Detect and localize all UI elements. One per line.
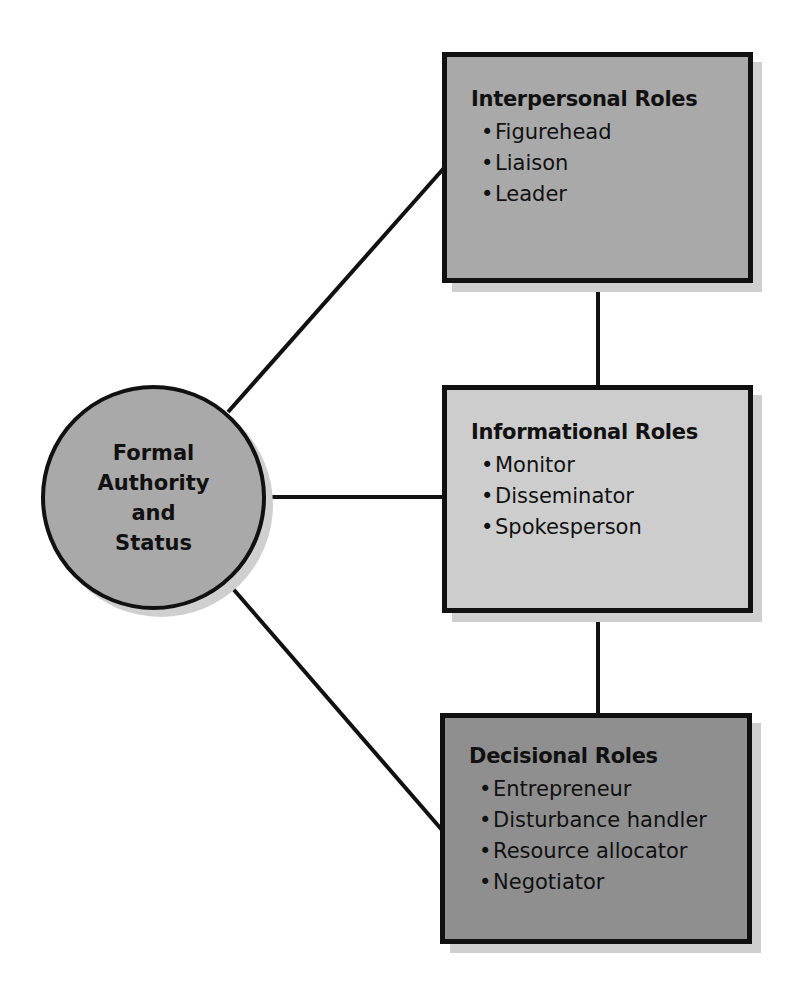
connector-circle-to-interpersonal [228, 168, 444, 412]
list-item: •Disseminator [481, 481, 748, 512]
list-item: •Negotiator [479, 867, 747, 898]
list-item: •Spokesperson [481, 512, 748, 543]
decisional-roles-list: •Entrepreneur •Disturbance handler •Reso… [469, 774, 747, 898]
informational-roles-list: •Monitor •Disseminator •Spokesperson [471, 450, 748, 543]
list-item: •Liaison [481, 148, 748, 179]
list-item: •Figurehead [481, 117, 748, 148]
interpersonal-roles-title: Interpersonal Roles [471, 87, 748, 111]
formal-authority-label: Formal Authority and Status [98, 438, 210, 558]
interpersonal-roles-list: •Figurehead •Liaison •Leader [471, 117, 748, 210]
decisional-roles-title: Decisional Roles [469, 744, 747, 768]
list-item: •Resource allocator [479, 836, 747, 867]
list-item: •Monitor [481, 450, 748, 481]
list-item: •Disturbance handler [479, 805, 747, 836]
decisional-roles-box: Decisional Roles •Entrepreneur •Disturba… [440, 713, 752, 944]
list-item: •Entrepreneur [479, 774, 747, 805]
informational-roles-box: Informational Roles •Monitor •Disseminat… [442, 385, 753, 613]
list-item: •Leader [481, 179, 748, 210]
connector-circle-to-decisional [228, 583, 442, 830]
informational-roles-title: Informational Roles [471, 420, 748, 444]
formal-authority-circle: Formal Authority and Status [41, 385, 266, 610]
interpersonal-roles-box: Interpersonal Roles •Figurehead •Liaison… [442, 52, 753, 283]
